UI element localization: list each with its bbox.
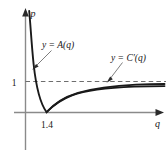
cost-curves-plot: p q 1 1.4 y = A(q) y = C′(q) (0, 0, 168, 166)
p-axis-arrowhead (22, 8, 29, 17)
average-cost-annotation: y = A(q) (41, 40, 74, 51)
marginal-cost-leader (107, 63, 123, 83)
marginal-cost-leader-line (110, 63, 123, 80)
q-axis-label: q (155, 118, 160, 129)
q-axis (14, 109, 164, 116)
figure-container: p q 1 1.4 y = A(q) y = C′(q) (0, 0, 168, 166)
marginal-cost-annotation: y = C′(q) (110, 53, 146, 64)
average-cost-leader (32, 51, 51, 70)
average-cost-leader-line (36, 51, 52, 67)
marginal-cost-curve (47, 84, 165, 112)
q-axis-arrowhead (156, 109, 165, 116)
p-axis (22, 8, 29, 150)
p-axis-label: p (30, 8, 36, 19)
y-tick-1-label: 1 (12, 78, 17, 88)
x-tick-1point4-label: 1.4 (41, 120, 53, 130)
